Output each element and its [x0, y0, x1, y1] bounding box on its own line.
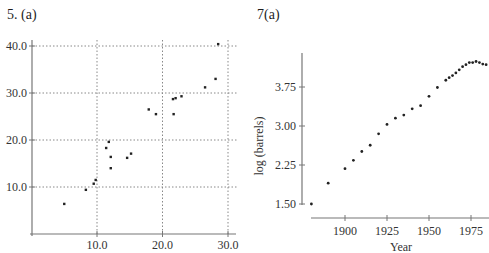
data-point — [377, 132, 380, 135]
data-point — [402, 114, 405, 117]
y-axis-title: log (barrels) — [252, 117, 266, 176]
data-point — [478, 61, 481, 64]
data-point — [436, 86, 439, 89]
data-point — [468, 61, 471, 64]
data-point — [458, 68, 461, 71]
data-point — [454, 72, 457, 75]
data-point — [411, 107, 414, 110]
data-point — [465, 63, 468, 66]
data-point — [419, 104, 422, 107]
data-point — [461, 65, 464, 68]
data-point — [448, 76, 451, 79]
data-point — [481, 63, 484, 66]
data-point — [444, 79, 447, 82]
data-point — [471, 61, 474, 64]
data-point — [327, 182, 330, 185]
y-tick-label: 1.50 — [275, 197, 296, 211]
data-point — [344, 167, 347, 170]
x-tick-label: 1925 — [375, 224, 399, 238]
y-tick-label: 2.25 — [275, 158, 296, 172]
data-point — [360, 150, 363, 153]
data-point — [369, 144, 372, 147]
y-tick-label: 3.75 — [275, 80, 296, 94]
data-point — [386, 123, 389, 126]
x-tick-label: 1975 — [459, 224, 483, 238]
data-point — [394, 117, 397, 120]
data-point — [475, 60, 478, 63]
data-point — [451, 74, 454, 77]
data-point — [352, 159, 355, 162]
right-scatter-chart: 1.502.253.003.751900192519501975Yearlog … — [0, 0, 489, 253]
x-tick-label: 1900 — [333, 224, 357, 238]
data-point — [485, 63, 488, 66]
y-tick-label: 3.00 — [275, 119, 296, 133]
x-tick-label: 1950 — [417, 224, 441, 238]
x-axis-title: Year — [390, 240, 412, 253]
data-point — [428, 95, 431, 98]
data-point — [310, 203, 313, 206]
